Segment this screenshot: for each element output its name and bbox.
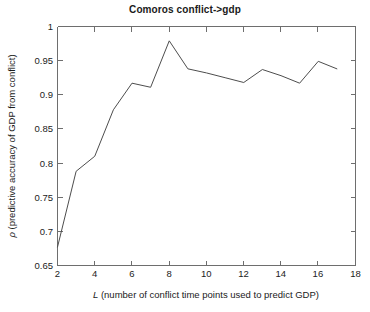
x-tick-labels: 2 4 6 8 10 12 14 16 18 — [55, 268, 361, 279]
x-tick-label-1: 4 — [92, 268, 97, 279]
y-tick-label-6: 0.95 — [35, 55, 54, 66]
x-tick-label-2: 6 — [129, 268, 134, 279]
data-series-line — [58, 41, 337, 247]
y-axis-title-rest: (predictive accuracy of GDP from conflic… — [6, 54, 17, 232]
x-axis-title: L (number of conflict time points used t… — [93, 289, 319, 300]
x-tick-label-5: 12 — [238, 268, 249, 279]
axes-frame — [58, 27, 356, 266]
axis-lines — [58, 27, 356, 266]
y-axis-title: ρ (predictive accuracy of GDP from confl… — [6, 54, 17, 238]
x-axis-title-rest: (number of conflict time points used to … — [98, 289, 319, 300]
y-tick-label-7: 1 — [48, 21, 53, 32]
y-tick-marks — [58, 27, 356, 266]
x-tick-marks — [58, 27, 356, 266]
y-tick-label-4: 0.85 — [35, 123, 54, 134]
y-tick-label-0: 0.65 — [35, 260, 54, 271]
y-tick-label-1: 0.7 — [40, 226, 53, 237]
y-tick-label-3: 0.8 — [40, 158, 53, 169]
x-tick-label-0: 2 — [55, 268, 60, 279]
y-tick-label-2: 0.75 — [35, 192, 54, 203]
y-tick-labels: 0.65 0.7 0.75 0.8 0.85 0.9 0.95 1 — [35, 21, 54, 271]
plot-canvas: 2 4 6 8 10 12 14 16 18 0.65 0.7 0.75 0.8… — [0, 0, 370, 312]
y-tick-label-5: 0.9 — [40, 89, 53, 100]
x-tick-label-6: 14 — [275, 268, 286, 279]
x-tick-label-4: 10 — [201, 268, 212, 279]
x-tick-label-8: 18 — [350, 268, 361, 279]
x-tick-label-3: 8 — [166, 268, 171, 279]
chart-figure: Comoros conflict->gdp — [0, 0, 370, 312]
x-tick-label-7: 16 — [313, 268, 324, 279]
